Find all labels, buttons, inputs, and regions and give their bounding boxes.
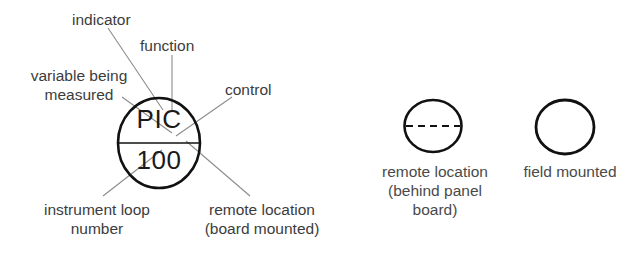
- annotation-instrument-loop-number: instrument loop number: [22, 200, 172, 238]
- annotation-function: function: [140, 36, 194, 55]
- remote-panel-circle: [405, 100, 462, 152]
- label-field-mounted: field mounted: [508, 162, 632, 181]
- annotation-remote-location-board-mounted: remote location (board mounted): [186, 200, 338, 238]
- balloon-loop-number-tag: 100: [118, 145, 200, 176]
- label-remote-location-behind-panel-board: remote location (behind panel board): [372, 162, 498, 219]
- annotation-control: control: [225, 80, 272, 99]
- annotation-indicator: indicator: [72, 10, 131, 29]
- pid-instrument-symbol-diagram: PIC 100 indicator function variable bein…: [0, 0, 632, 255]
- field-mounted-circle: [536, 100, 594, 154]
- balloon-function-tag: PIC: [118, 104, 200, 135]
- annotation-variable-being-measured: variable being measured: [14, 66, 144, 104]
